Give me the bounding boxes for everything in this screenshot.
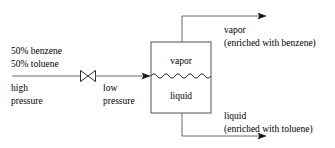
liquid-product-line-2: (enriched with toluene): [224, 123, 313, 136]
feed-composition-line-2: 50% toluene: [11, 58, 62, 71]
feed-composition-line-1: 50% benzene: [11, 45, 62, 58]
liquid-phase-label: liquid: [151, 90, 211, 103]
vapor-product-line-1: vapor: [224, 24, 316, 37]
valve-outlet-line-1: low: [103, 82, 135, 95]
valve-icon: [81, 71, 96, 82]
vapor-phase-label: vapor: [151, 55, 211, 68]
feed-pressure-line-1: high: [11, 82, 43, 95]
feed-pressure-label: high pressure: [11, 82, 43, 107]
liquid-product-line-1: liquid: [224, 110, 313, 123]
vapor-product-line-2: (enriched with benzene): [224, 37, 316, 50]
vapor-product-label: vapor (enriched with benzene): [224, 24, 316, 49]
valve-outlet-line-2: pressure: [103, 95, 135, 108]
liquid-product-label: liquid (enriched with toluene): [224, 110, 313, 135]
feed-composition-label: 50% benzene 50% toluene: [11, 45, 62, 70]
flash-distillation-diagram: 50% benzene 50% toluene high pressure lo…: [0, 0, 335, 148]
valve-outlet-pressure-label: low pressure: [103, 82, 135, 107]
feed-pressure-line-2: pressure: [11, 95, 43, 108]
